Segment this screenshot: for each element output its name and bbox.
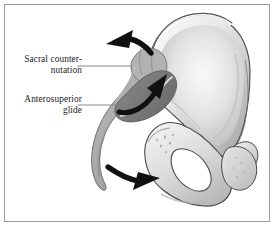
label-sacral-counternutation: Sacral counter- nutation (8, 54, 82, 76)
figure-panel: Sacral counter- nutation Anterosuperior … (0, 0, 276, 228)
label-anterosuperior-glide: Anterosuperior glide (8, 94, 82, 116)
superior-arrow-head (106, 30, 133, 48)
inferior-arrow-tail (108, 167, 138, 181)
superior-arrow (106, 30, 151, 53)
